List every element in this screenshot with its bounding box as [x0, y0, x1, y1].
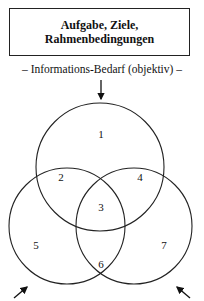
region-2: 2	[58, 171, 64, 183]
circle-right	[76, 168, 192, 284]
venn-diagram: 1 2 3 4 5 6 7	[0, 0, 204, 301]
region-4: 4	[137, 171, 143, 183]
region-5: 5	[33, 239, 39, 251]
region-1: 1	[98, 128, 104, 140]
circle-left	[9, 168, 125, 284]
arrow-bottom-right-icon	[177, 287, 190, 298]
region-7: 7	[161, 239, 167, 251]
region-6: 6	[98, 258, 104, 270]
region-3: 3	[98, 201, 104, 213]
arrow-bottom-left-icon	[14, 287, 27, 298]
